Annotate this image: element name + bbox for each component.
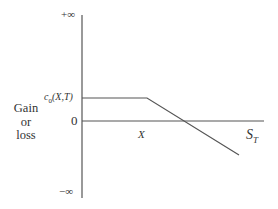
- y-axis-title: Gain or loss: [6, 102, 46, 143]
- y-axis-title-line2: or: [6, 116, 46, 130]
- minus-infinity-label: −∞: [59, 186, 73, 197]
- plus-infinity-label: +∞: [61, 9, 75, 20]
- c0-label: c0(X,T): [44, 92, 73, 105]
- c0-args: (X,T): [52, 91, 73, 102]
- y-axis-title-line1: Gain: [6, 102, 46, 116]
- st-sub: T: [253, 135, 258, 145]
- y-axis-title-line3: loss: [6, 129, 46, 143]
- st-base: S: [246, 127, 253, 142]
- payoff-line: [82, 98, 239, 155]
- zero-label: 0: [71, 114, 78, 127]
- strike-label: X: [138, 129, 145, 140]
- st-label: ST: [246, 128, 258, 145]
